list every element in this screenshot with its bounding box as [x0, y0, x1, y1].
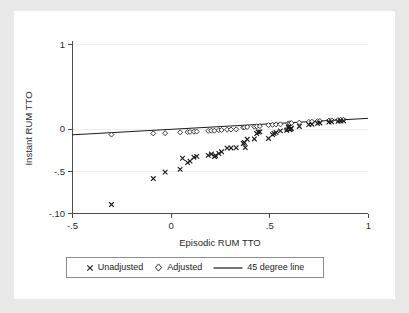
- data-point-unadjusted: [245, 137, 250, 142]
- data-point-unadjusted: [252, 137, 257, 142]
- data-point-unadjusted: [234, 145, 239, 150]
- diamond-marker-icon: [154, 263, 163, 272]
- data-point-unadjusted: [229, 146, 234, 151]
- legend-entry-adjusted: Adjusted: [154, 263, 202, 272]
- reference-line-45deg: [72, 118, 368, 134]
- data-point-adjusted: [234, 127, 239, 132]
- line-sample-icon: [213, 264, 243, 272]
- data-point-unadjusted: [180, 156, 185, 161]
- legend-label-unadjusted: Unadjusted: [98, 263, 144, 272]
- legend-entry-unadjusted: Unadjusted: [86, 263, 144, 272]
- legend-entry-45-degree-line: 45 degree line: [213, 263, 304, 272]
- x-tick-label: -.5: [67, 220, 78, 231]
- tick-labels: 10-.5-.10-.50.51: [49, 39, 372, 231]
- legend-label-adjusted: Adjusted: [167, 263, 202, 272]
- y-tick-label: 1: [60, 39, 65, 50]
- data-point-unadjusted: [151, 176, 156, 181]
- axes: [73, 41, 369, 214]
- x-marker-icon: [86, 264, 94, 272]
- x-tick-label: 1: [366, 220, 371, 231]
- x-axis-title: Episodic RUM TTO: [179, 237, 260, 248]
- legend-label-45-degree-line: 45 degree line: [247, 263, 304, 272]
- series-adjusted-points: [109, 117, 346, 137]
- y-tick-label: -.5: [54, 166, 65, 177]
- scatter-plot: 10-.5-.10-.50.51 Episodic RUM TTO Instan…: [14, 11, 395, 299]
- data-point-adjusted: [151, 131, 156, 136]
- chart-card: 10-.5-.10-.50.51 Episodic RUM TTO Instan…: [14, 11, 395, 299]
- y-axis-title: Instant RUM TTO: [23, 91, 34, 165]
- data-point-adjusted: [229, 127, 234, 132]
- x-tick-label: .5: [266, 220, 274, 231]
- x-tick-label: 0: [169, 220, 174, 231]
- data-point-unadjusted: [266, 136, 271, 141]
- data-point-unadjusted: [163, 170, 168, 175]
- chart-legend: Unadjusted Adjusted 45 degree line: [66, 257, 324, 278]
- y-tick-label: -.10: [49, 208, 65, 219]
- figure-root: 10-.5-.10-.50.51 Episodic RUM TTO Instan…: [0, 0, 409, 313]
- data-point-adjusted: [178, 130, 183, 135]
- data-point-adjusted: [278, 122, 283, 127]
- y-tick-label: 0: [60, 123, 65, 134]
- data-point-adjusted: [163, 131, 168, 136]
- data-point-unadjusted: [109, 202, 114, 207]
